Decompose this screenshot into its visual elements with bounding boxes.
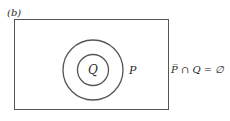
set-q-label: Q — [88, 63, 98, 77]
venn-diagram — [0, 0, 230, 121]
figure-label: (b) — [7, 7, 21, 18]
set-p-label: P — [129, 64, 136, 77]
equation-label: P̅ ∩ Q = ∅ — [171, 64, 224, 75]
